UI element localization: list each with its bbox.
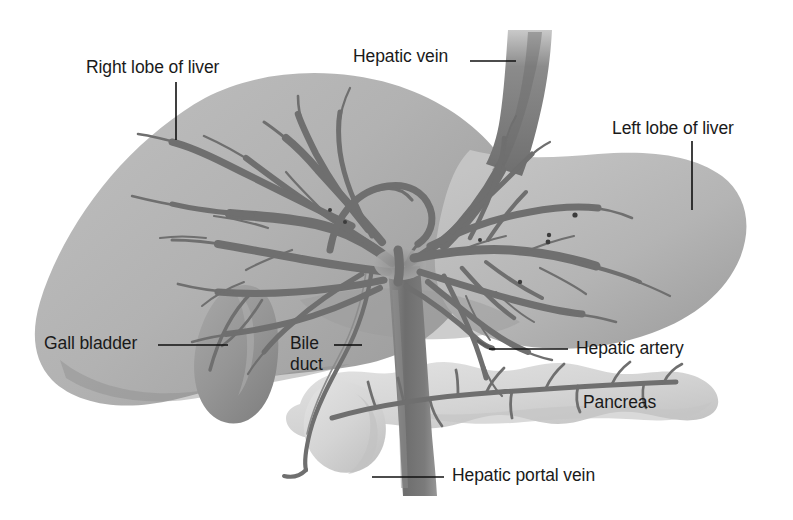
vessel-node-3 — [547, 233, 551, 237]
vessel-node-7 — [343, 220, 347, 224]
label-bile-duct: Bile duct — [290, 333, 323, 375]
pancreas — [286, 362, 718, 474]
liver-anatomy-illustration — [0, 0, 793, 520]
label-hepatic-vein: Hepatic vein — [353, 46, 448, 67]
label-hepatic-portal-vein: Hepatic portal vein — [452, 465, 595, 486]
bile-duct-lower — [284, 470, 306, 477]
vessel-node-1 — [572, 212, 577, 217]
figure-canvas: Right lobe of liver Hepatic vein Left lo… — [0, 0, 793, 520]
hilum-descending — [398, 250, 400, 282]
vessel-node-5 — [478, 238, 482, 242]
label-gall-bladder: Gall bladder — [44, 333, 137, 354]
vessel-node-2 — [546, 240, 551, 245]
label-right-lobe-of-liver: Right lobe of liver — [86, 57, 219, 78]
vessel-node-4 — [518, 280, 522, 284]
label-pancreas: Pancreas — [583, 392, 656, 413]
vessel-node-6 — [328, 208, 332, 212]
label-left-lobe-of-liver: Left lobe of liver — [612, 118, 734, 139]
label-hepatic-artery: Hepatic artery — [576, 338, 684, 359]
duct-branch-6 — [511, 391, 513, 418]
